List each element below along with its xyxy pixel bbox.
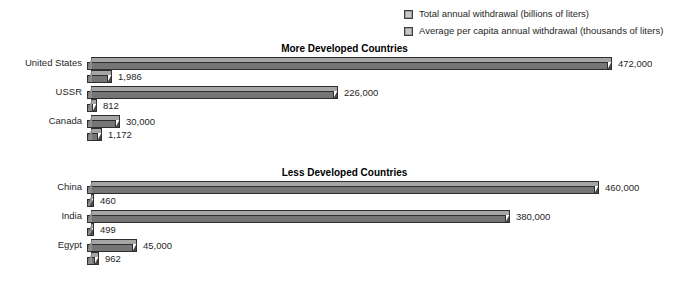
chart-row: China460,000460 bbox=[0, 180, 689, 209]
value-label-total: 472,000 bbox=[618, 57, 652, 70]
chart-row: Canada30,0001,172 bbox=[0, 114, 689, 143]
legend-swatch-total-icon bbox=[404, 10, 413, 19]
section-title-more-developed: More Developed Countries bbox=[0, 43, 689, 54]
value-label-per-capita: 499 bbox=[100, 223, 116, 236]
water-withdrawal-chart: Total annual withdrawal (billions of lit… bbox=[0, 0, 689, 281]
legend-item-total: Total annual withdrawal (billions of lit… bbox=[404, 7, 689, 21]
country-label: China bbox=[0, 181, 82, 192]
chart-legend: Total annual withdrawal (billions of lit… bbox=[404, 7, 689, 41]
section-title-less-developed: Less Developed Countries bbox=[0, 167, 689, 178]
legend-label-per-capita: Average per capita annual withdrawal (th… bbox=[419, 25, 663, 37]
country-label: Egypt bbox=[0, 239, 82, 250]
country-label: United States bbox=[0, 57, 82, 68]
value-label-total: 226,000 bbox=[344, 86, 378, 99]
bar-per-capita-withdrawal bbox=[87, 194, 94, 207]
value-label-total: 460,000 bbox=[605, 181, 639, 194]
bar-per-capita-withdrawal bbox=[87, 99, 97, 112]
bar-front-face bbox=[87, 244, 133, 252]
bar-front-face bbox=[87, 91, 334, 99]
bar-total-withdrawal bbox=[87, 181, 599, 194]
country-label: Canada bbox=[0, 115, 82, 126]
country-label: USSR bbox=[0, 86, 82, 97]
bar-per-capita-withdrawal bbox=[87, 70, 112, 83]
value-label-total: 45,000 bbox=[143, 239, 172, 252]
bar-total-withdrawal bbox=[87, 57, 612, 70]
value-label-per-capita: 1,986 bbox=[118, 70, 142, 83]
legend-swatch-per-capita-icon bbox=[404, 27, 413, 36]
bar-front-face bbox=[87, 62, 608, 70]
value-label-per-capita: 1,172 bbox=[108, 128, 132, 141]
bar-front-face bbox=[87, 215, 506, 223]
chart-row: India380,000499 bbox=[0, 209, 689, 238]
bar-front-face bbox=[87, 186, 595, 194]
bar-total-withdrawal bbox=[87, 239, 137, 252]
value-label-total: 30,000 bbox=[126, 115, 155, 128]
chart-row: United States472,0001,986 bbox=[0, 56, 689, 85]
value-label-per-capita: 812 bbox=[103, 99, 119, 112]
legend-item-per-capita: Average per capita annual withdrawal (th… bbox=[404, 24, 689, 38]
bar-per-capita-withdrawal bbox=[87, 223, 94, 236]
bar-total-withdrawal bbox=[87, 210, 510, 223]
value-label-per-capita: 962 bbox=[105, 252, 121, 265]
bar-per-capita-withdrawal bbox=[87, 128, 102, 141]
legend-label-total: Total annual withdrawal (billions of lit… bbox=[419, 8, 589, 20]
chart-group-less-developed: China460,000460India380,000499Egypt45,00… bbox=[0, 180, 689, 267]
value-label-total: 380,000 bbox=[516, 210, 550, 223]
chart-row: Egypt45,000962 bbox=[0, 238, 689, 267]
chart-group-more-developed: United States472,0001,986USSR226,000812C… bbox=[0, 56, 689, 143]
bar-total-withdrawal bbox=[87, 86, 338, 99]
bar-per-capita-withdrawal bbox=[87, 252, 99, 265]
value-label-per-capita: 460 bbox=[100, 194, 116, 207]
country-label: India bbox=[0, 210, 82, 221]
chart-row: USSR226,000812 bbox=[0, 85, 689, 114]
bar-total-withdrawal bbox=[87, 115, 120, 128]
